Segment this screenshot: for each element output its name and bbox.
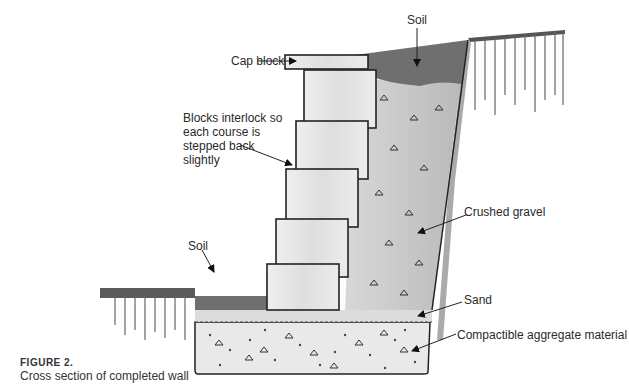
block-course-5 — [304, 70, 376, 128]
figure-number: FIGURE 2. — [20, 357, 73, 368]
figure-caption: Cross section of completed wall — [20, 369, 189, 383]
sand-layer — [195, 310, 432, 322]
left-soil-fill — [195, 296, 268, 310]
label-sand: Sand — [464, 293, 492, 307]
block-course-1 — [267, 264, 339, 310]
cap-block — [285, 55, 368, 69]
compactible-aggregate-layer — [195, 322, 430, 374]
label-blocks-interlock: Blocks interlock so each course is stepp… — [183, 111, 293, 167]
soil-left-leader — [202, 250, 214, 272]
left-ground — [100, 288, 195, 340]
label-soil-left: Soil — [188, 239, 208, 253]
label-compactible-aggregate: Compactible aggregate material — [457, 328, 627, 342]
label-crushed-gravel: Crushed gravel — [464, 205, 545, 219]
label-soil-top: Soil — [407, 13, 427, 27]
label-cap-block: Cap block — [231, 54, 284, 68]
